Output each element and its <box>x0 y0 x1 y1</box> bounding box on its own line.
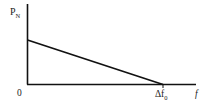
origin-label: 0 <box>17 88 22 98</box>
x-axis-label: f <box>195 89 199 99</box>
data-line <box>28 40 164 85</box>
y-axis-label: PN <box>10 6 21 19</box>
chart-canvas: PN 0 Δf0 f <box>0 0 208 111</box>
x-tick-label-delta-f0: Δf0 <box>155 89 168 101</box>
